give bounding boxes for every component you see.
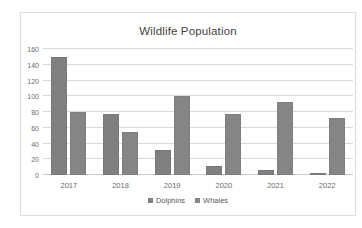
x-axis-tick-label: 2018 (95, 181, 147, 190)
y-axis-tick-label: 0 (35, 172, 39, 179)
legend-item-whales[interactable]: Whales (195, 196, 228, 205)
y-axis-tick-label: 120 (27, 77, 39, 84)
plot-area: 020406080100120140160 201720182019202020… (43, 49, 353, 175)
y-axis-tick-label: 80 (31, 109, 39, 116)
chart-container: Wildlife Population 02040608010012014016… (20, 12, 356, 216)
bar-dolphins-2021[interactable] (258, 170, 274, 175)
x-axis-tick-label: 2022 (301, 181, 353, 190)
bar-group: 2022 (301, 49, 353, 175)
x-axis-tick-label: 2019 (146, 181, 198, 190)
bar-dolphins-2022[interactable] (310, 173, 326, 175)
bar-whales-2018[interactable] (122, 132, 138, 175)
legend-label: Dolphins (156, 196, 185, 205)
bar-whales-2017[interactable] (70, 112, 86, 175)
y-axis-tick-label: 160 (27, 46, 39, 53)
bar-group: 2017 (43, 49, 95, 175)
legend-item-dolphins[interactable]: Dolphins (148, 196, 185, 205)
y-axis-tick-label: 20 (31, 156, 39, 163)
legend-label: Whales (203, 196, 228, 205)
bar-whales-2021[interactable] (277, 102, 293, 175)
bar-group: 2021 (250, 49, 302, 175)
y-axis-tick-label: 40 (31, 140, 39, 147)
y-axis-tick-label: 60 (31, 124, 39, 131)
bar-dolphins-2017[interactable] (51, 57, 67, 175)
chart-title: Wildlife Population (21, 25, 355, 37)
bar-whales-2022[interactable] (329, 118, 345, 175)
bar-whales-2020[interactable] (225, 114, 241, 175)
bar-group: 2020 (198, 49, 250, 175)
legend-swatch-icon (195, 198, 200, 203)
bar-dolphins-2018[interactable] (103, 114, 119, 175)
y-axis-tick-label: 140 (27, 61, 39, 68)
legend-swatch-icon (148, 198, 153, 203)
x-axis-tick-label: 2020 (198, 181, 250, 190)
chart-legend: DolphinsWhales (21, 196, 355, 205)
x-axis-tick-label: 2017 (43, 181, 95, 190)
x-axis-tick-label: 2021 (250, 181, 302, 190)
y-axis-tick-label: 100 (27, 93, 39, 100)
bar-whales-2019[interactable] (174, 96, 190, 175)
bar-groups: 201720182019202020212022 (43, 49, 353, 175)
bar-dolphins-2020[interactable] (206, 166, 222, 175)
bar-group: 2019 (146, 49, 198, 175)
bar-dolphins-2019[interactable] (155, 150, 171, 175)
bar-group: 2018 (95, 49, 147, 175)
